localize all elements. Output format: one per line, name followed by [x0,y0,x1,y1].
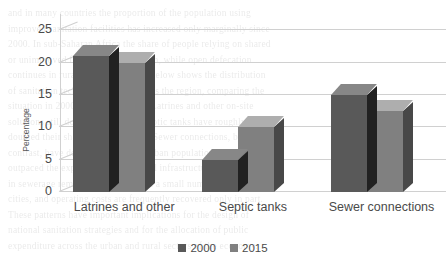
x-axis-category-label: Latrines and other [74,200,175,214]
legend-label: 2015 [242,242,268,254]
bar-column[interactable] [202,160,238,192]
plot-area: 0510152025Latrines and otherSeptic tanks… [60,14,446,192]
bar-side-face [367,86,377,192]
grid-line-depth-riser [59,22,78,30]
y-axis-line [60,14,61,192]
y-axis-tick-label: 15 [38,87,52,101]
legend-swatch-icon [230,244,238,252]
x-axis-category-label: Sewer connections [329,200,435,214]
legend-label: 2000 [190,242,216,254]
legend-swatch-icon [178,244,186,252]
y-axis-title: Percentage [21,108,31,151]
y-axis-tick-label: 10 [38,119,52,133]
y-axis-tick-label: 5 [45,152,52,166]
bar-group: Latrines and other [73,56,165,192]
bar-side-face [109,47,119,192]
y-axis-tick-label: 25 [38,22,52,36]
y-axis-tick-label: 0 [45,184,52,198]
bar-column[interactable] [73,56,109,192]
bar-side-face [145,54,155,192]
bar-2000-sewer-connections[interactable] [331,95,367,192]
grid-line: 25 [60,29,446,30]
legend-item-2015[interactable]: 2015 [230,242,268,254]
bar-side-face [274,118,284,192]
bar-side-face [403,102,413,192]
bar-front-face [202,160,238,192]
bar-group: Septic tanks [202,127,294,192]
bar-front-face [331,95,367,192]
bar-group: Sewer connections [331,95,423,192]
bar-front-face [73,56,109,192]
chart-legend: 20002015 [0,242,446,254]
bar-2000-septic-tanks[interactable] [202,160,238,192]
legend-item-2000[interactable]: 2000 [178,242,216,254]
bar-chart: 0510152025Latrines and otherSeptic tanks… [0,0,446,260]
bar-column[interactable] [331,95,367,192]
y-axis-tick-label: 20 [38,55,52,69]
x-axis-category-label: Septic tanks [219,200,287,214]
bar-2000-latrines-and-other[interactable] [73,56,109,192]
